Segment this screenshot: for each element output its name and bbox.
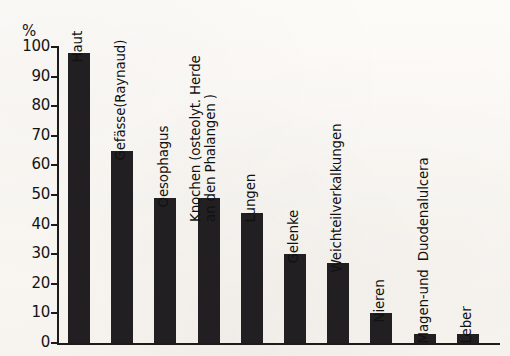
bar-label: Gefässe(Raynaud) bbox=[113, 0, 128, 160]
bar-label: Gelenke bbox=[286, 4, 301, 264]
bar bbox=[327, 263, 349, 343]
bar-label: Magen-und Duodenalulcera bbox=[415, 84, 430, 344]
plot-area: HautGefässe(Raynaud)OesophagusKnochen (o… bbox=[0, 0, 510, 344]
bar-label: Nieren bbox=[372, 63, 387, 323]
bar-label: Lungen bbox=[242, 0, 257, 222]
bar-label: Weichteilverkalkungen bbox=[329, 13, 344, 273]
bar-label: Leber bbox=[458, 84, 473, 344]
bar-label: Oesophagus bbox=[156, 0, 171, 207]
bar bbox=[241, 213, 263, 343]
bar-label: Knochen (osteolyt. Herde an den Phalange… bbox=[188, 0, 217, 222]
bar-label: Haut bbox=[70, 0, 85, 62]
bar-chart: % 1009080706050403020100 HautGefässe(Ray… bbox=[0, 0, 510, 356]
bar bbox=[68, 53, 90, 343]
bar bbox=[154, 198, 176, 343]
bar bbox=[284, 254, 306, 343]
bar bbox=[111, 151, 133, 343]
